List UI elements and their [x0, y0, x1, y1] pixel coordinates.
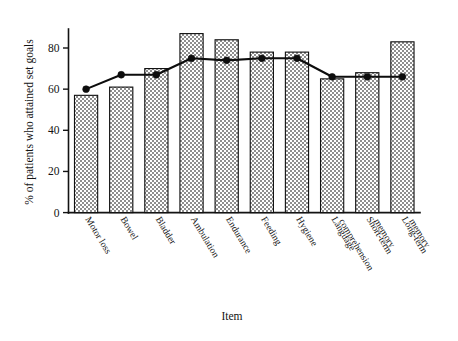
line-marker: [399, 73, 406, 80]
bar: [285, 52, 308, 212]
line-marker: [188, 55, 195, 62]
bar: [391, 42, 414, 213]
line-marker: [258, 55, 265, 62]
y-tick-label: 0: [54, 207, 60, 219]
line-marker: [294, 55, 301, 62]
bar-line-chart: 020406080 Motor lossBowelBladderAmbulati…: [0, 0, 458, 341]
y-tick-label: 60: [48, 83, 60, 95]
bar: [321, 79, 344, 213]
line-marker: [153, 71, 160, 78]
bar: [215, 40, 238, 213]
bar: [145, 69, 168, 213]
y-tick-label: 20: [48, 165, 60, 177]
y-axis-title: % of patients who attained set goals: [23, 39, 36, 205]
line-marker: [329, 73, 336, 80]
y-tick-label: 40: [48, 124, 60, 136]
x-axis-title: Item: [221, 310, 242, 322]
line-marker: [223, 57, 230, 64]
line-marker: [83, 86, 90, 93]
bar: [250, 52, 273, 212]
bar: [110, 87, 133, 213]
bar: [74, 95, 97, 212]
line-marker: [364, 73, 371, 80]
line-marker: [118, 71, 125, 78]
y-tick-label: 80: [48, 42, 60, 54]
bar: [356, 73, 379, 213]
chart-figure: 020406080 Motor lossBowelBladderAmbulati…: [0, 0, 458, 341]
